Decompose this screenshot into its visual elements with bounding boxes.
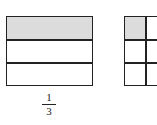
shaded-row	[7, 17, 92, 39]
left-fraction-model	[6, 16, 93, 86]
row-divider	[125, 62, 157, 64]
shaded-cell	[125, 17, 145, 39]
denominator: 3	[42, 106, 56, 117]
column-divider	[145, 17, 147, 85]
row-divider	[7, 39, 92, 41]
fraction-label: 1 3	[42, 92, 56, 117]
row-divider	[125, 39, 157, 41]
numerator: 1	[42, 92, 56, 103]
row-divider	[7, 62, 92, 64]
right-fraction-model	[124, 16, 157, 86]
